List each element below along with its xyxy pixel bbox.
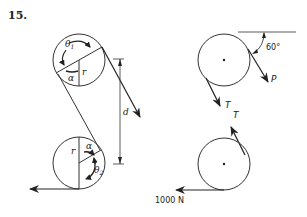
alpha-arc-bottom-icon (84, 152, 94, 155)
theta1-arc-return-icon (62, 50, 66, 65)
belt-tension-arrow (102, 47, 140, 117)
angle-arc-icon (254, 33, 264, 53)
angle-60-label: 60° (266, 43, 280, 52)
right-figure: 60° P T T 1000 N (155, 32, 296, 205)
distance-label: d (123, 107, 129, 117)
tension-top-label: T (225, 100, 232, 110)
alpha-label-top: α (68, 73, 74, 83)
radius-label-bottom: r (71, 146, 76, 156)
tension-top-arrow (206, 78, 220, 106)
alpha-arc-icon (66, 71, 78, 72)
right-bottom-pulley-center (223, 163, 225, 165)
load-label: 1000 N (155, 196, 184, 205)
right-top-pulley-center (223, 59, 225, 61)
tension-bottom-label: T (233, 110, 240, 120)
alpha-label-bottom: α (86, 141, 92, 151)
radius-label-top: r (82, 67, 87, 77)
bottom-pulley: r α θ2 (53, 137, 105, 189)
belt-pulley-diagram: θ1 α r r α θ2 (0, 0, 307, 217)
force-p-arrow (248, 49, 268, 82)
force-p-label: P (271, 74, 277, 84)
left-figure: θ1 α r r α θ2 (30, 34, 140, 189)
theta2-label: θ2 (94, 165, 103, 176)
theta1-label: θ1 (65, 39, 74, 50)
dimension-d: d (113, 59, 129, 164)
tension-bottom-arrow (231, 127, 245, 155)
